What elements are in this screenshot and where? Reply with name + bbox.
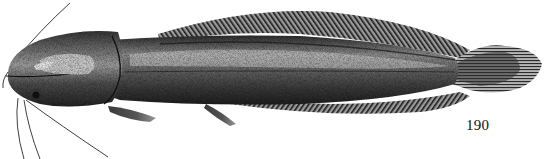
barbel-nasal xyxy=(3,72,8,88)
catfish-illustration xyxy=(0,0,548,159)
pectoral-fin xyxy=(108,106,156,122)
pelvic-fin xyxy=(204,104,236,126)
figure-number: 190 xyxy=(466,117,489,134)
barbel-lower-1 xyxy=(17,98,24,159)
barbel-lower-3 xyxy=(26,100,108,157)
